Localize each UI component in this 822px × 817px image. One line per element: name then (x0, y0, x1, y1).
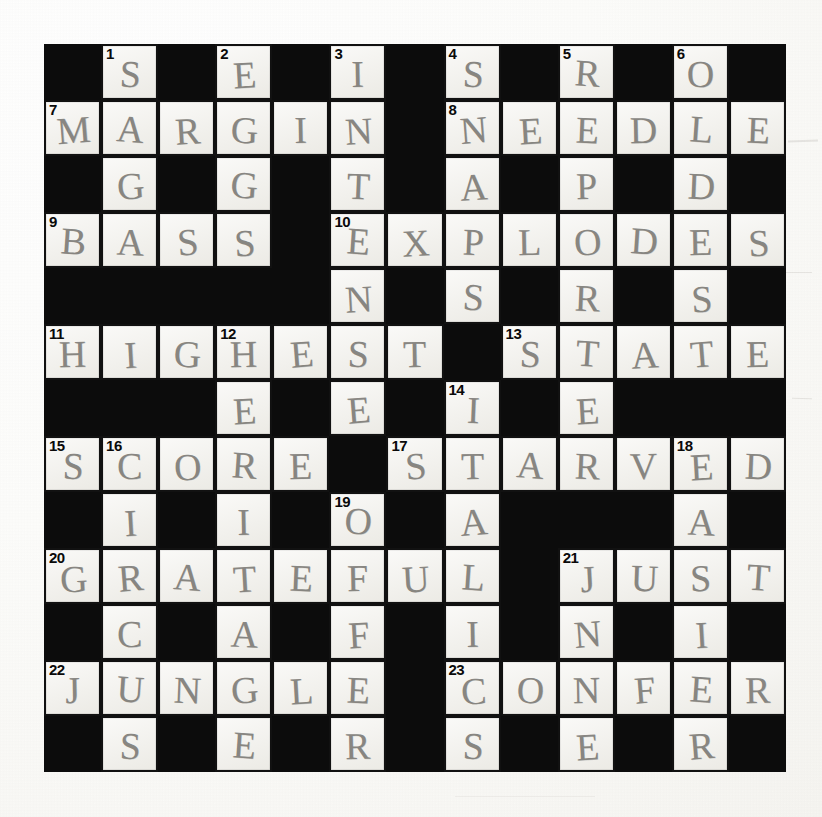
grid-letter-cell[interactable]: A (101, 100, 158, 156)
grid-letter-cell[interactable]: 4S (444, 44, 501, 100)
grid-letter-cell[interactable]: S (729, 212, 786, 268)
grid-letter-cell[interactable]: E (215, 716, 272, 772)
grid-letter-cell[interactable]: O (501, 660, 558, 716)
grid-letter-cell[interactable]: U (101, 660, 158, 716)
grid-letter-cell[interactable]: S (672, 548, 729, 604)
grid-letter-cell[interactable]: 16C (101, 436, 158, 492)
grid-letter-cell[interactable]: D (672, 156, 729, 212)
grid-letter-cell[interactable]: E (329, 380, 386, 436)
grid-letter-cell[interactable]: P (558, 156, 615, 212)
grid-letter-cell[interactable]: R (215, 436, 272, 492)
grid-letter-cell[interactable]: R (329, 716, 386, 772)
grid-letter-cell[interactable]: 7M (44, 100, 101, 156)
grid-letter-cell[interactable]: E (729, 324, 786, 380)
grid-letter-cell[interactable]: 2E (215, 44, 272, 100)
grid-letter-cell[interactable]: G (101, 156, 158, 212)
grid-letter-cell[interactable]: 18E (672, 436, 729, 492)
grid-letter-cell[interactable]: R (558, 436, 615, 492)
grid-letter-cell[interactable]: E (272, 436, 329, 492)
grid-letter-cell[interactable]: T (215, 548, 272, 604)
grid-letter-cell[interactable]: A (444, 156, 501, 212)
grid-letter-cell[interactable]: D (615, 212, 672, 268)
grid-letter-cell[interactable]: G (215, 156, 272, 212)
grid-letter-cell[interactable]: I (215, 492, 272, 548)
grid-letter-cell[interactable]: S (672, 268, 729, 324)
grid-letter-cell[interactable]: 3I (329, 44, 386, 100)
grid-letter-cell[interactable]: 10E (329, 212, 386, 268)
grid-letter-cell[interactable]: S (158, 212, 215, 268)
grid-letter-cell[interactable]: T (558, 324, 615, 380)
grid-letter-cell[interactable]: S (215, 212, 272, 268)
grid-letter-cell[interactable]: X (386, 212, 443, 268)
grid-letter-cell[interactable]: F (329, 604, 386, 660)
grid-letter-cell[interactable]: D (615, 100, 672, 156)
grid-letter-cell[interactable]: 11H (44, 324, 101, 380)
grid-letter-cell[interactable]: V (615, 436, 672, 492)
grid-letter-cell[interactable]: E (215, 380, 272, 436)
grid-letter-cell[interactable]: T (386, 324, 443, 380)
grid-letter-cell[interactable]: A (101, 212, 158, 268)
grid-letter-cell[interactable]: E (672, 212, 729, 268)
grid-letter-cell[interactable]: P (444, 212, 501, 268)
grid-letter-cell[interactable]: O (158, 436, 215, 492)
grid-letter-cell[interactable]: D (729, 436, 786, 492)
grid-letter-cell[interactable]: E (272, 324, 329, 380)
grid-letter-cell[interactable]: U (386, 548, 443, 604)
grid-letter-cell[interactable]: 14I (444, 380, 501, 436)
grid-letter-cell[interactable]: T (672, 324, 729, 380)
grid-letter-cell[interactable]: 1S (101, 44, 158, 100)
grid-letter-cell[interactable]: E (729, 100, 786, 156)
grid-letter-cell[interactable]: O (558, 212, 615, 268)
grid-letter-cell[interactable]: R (158, 100, 215, 156)
grid-letter-cell[interactable]: G (215, 660, 272, 716)
grid-letter-cell[interactable]: T (444, 436, 501, 492)
grid-letter-cell[interactable]: N (558, 660, 615, 716)
grid-letter-cell[interactable]: G (215, 100, 272, 156)
grid-letter-cell[interactable]: S (444, 716, 501, 772)
grid-letter-cell[interactable]: T (329, 156, 386, 212)
grid-letter-cell[interactable]: 19O (329, 492, 386, 548)
grid-letter-cell[interactable]: E (558, 100, 615, 156)
grid-letter-cell[interactable]: R (729, 660, 786, 716)
grid-letter-cell[interactable]: E (558, 716, 615, 772)
grid-letter-cell[interactable]: R (101, 548, 158, 604)
grid-letter-cell[interactable]: N (158, 660, 215, 716)
grid-letter-cell[interactable]: I (272, 100, 329, 156)
grid-letter-cell[interactable]: E (558, 380, 615, 436)
grid-letter-cell[interactable]: 15S (44, 436, 101, 492)
grid-letter-cell[interactable]: S (444, 268, 501, 324)
grid-letter-cell[interactable]: T (729, 548, 786, 604)
grid-letter-cell[interactable]: N (329, 268, 386, 324)
grid-letter-cell[interactable]: 22J (44, 660, 101, 716)
grid-letter-cell[interactable]: R (558, 268, 615, 324)
grid-letter-cell[interactable]: L (272, 660, 329, 716)
grid-letter-cell[interactable]: U (615, 548, 672, 604)
grid-letter-cell[interactable]: I (672, 604, 729, 660)
grid-letter-cell[interactable]: I (101, 324, 158, 380)
grid-letter-cell[interactable]: E (329, 660, 386, 716)
grid-letter-cell[interactable]: 6O (672, 44, 729, 100)
grid-letter-cell[interactable]: N (558, 604, 615, 660)
grid-letter-cell[interactable]: L (444, 548, 501, 604)
grid-letter-cell[interactable]: 13S (501, 324, 558, 380)
grid-letter-cell[interactable]: I (101, 492, 158, 548)
grid-letter-cell[interactable]: E (272, 548, 329, 604)
grid-letter-cell[interactable]: E (672, 660, 729, 716)
grid-letter-cell[interactable]: A (615, 324, 672, 380)
grid-letter-cell[interactable]: N (329, 100, 386, 156)
grid-letter-cell[interactable]: A (501, 436, 558, 492)
grid-letter-cell[interactable]: R (672, 716, 729, 772)
grid-letter-cell[interactable]: 20G (44, 548, 101, 604)
grid-letter-cell[interactable]: F (329, 548, 386, 604)
grid-letter-cell[interactable]: S (101, 716, 158, 772)
grid-letter-cell[interactable]: L (672, 100, 729, 156)
grid-letter-cell[interactable]: I (444, 604, 501, 660)
grid-letter-cell[interactable]: E (501, 100, 558, 156)
grid-letter-cell[interactable]: L (501, 212, 558, 268)
grid-letter-cell[interactable]: G (158, 324, 215, 380)
grid-letter-cell[interactable]: C (101, 604, 158, 660)
grid-letter-cell[interactable]: 21J (558, 548, 615, 604)
grid-letter-cell[interactable]: 23C (444, 660, 501, 716)
grid-letter-cell[interactable]: S (329, 324, 386, 380)
crossword-grid[interactable]: 1S2E3I4S5R6O7MARGIN8NEEDLEGGTAPD9BASS10E… (44, 44, 786, 772)
